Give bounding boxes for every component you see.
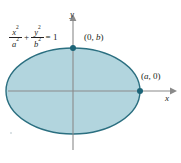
x-axis-arrowhead (170, 88, 177, 95)
fraction-denominator-a: a2 (11, 39, 20, 49)
fraction-x-over-a: x2 a2 (9, 27, 22, 49)
equation-right-hand-side: = 1 (46, 33, 58, 42)
stray-speck (10, 132, 12, 134)
point-label-top-open: (0, (84, 32, 96, 42)
point-label-top-close: ) (101, 32, 104, 42)
ellipse-figure: x2 a2 + y2 b2 = 1 (0, b) (a, 0) y x (0, 0, 181, 163)
x-axis-label: x (165, 94, 169, 103)
point-label-top-vertex: (0, b) (84, 33, 104, 42)
equation-numerator-2-exponent: 2 (38, 24, 41, 30)
equation-plus-operator: + (24, 33, 30, 42)
equation-denominator-1-exponent: 2 (16, 36, 19, 42)
equation-numerator-1-exponent: 2 (16, 24, 19, 30)
point-marker-right-vertex (137, 88, 143, 94)
point-label-right-vertex: (a, 0) (141, 72, 161, 81)
equation-denominator-2-exponent: 2 (38, 36, 41, 42)
ellipse-equation-label: x2 a2 + y2 b2 = 1 (9, 27, 57, 49)
figure-canvas (0, 0, 181, 163)
y-axis-label: y (70, 10, 74, 19)
point-label-right-close: , 0) (149, 71, 161, 81)
fraction-denominator-b: b2 (33, 39, 42, 49)
fraction-y-over-b: y2 b2 (31, 27, 44, 49)
point-marker-top-vertex (70, 45, 76, 51)
